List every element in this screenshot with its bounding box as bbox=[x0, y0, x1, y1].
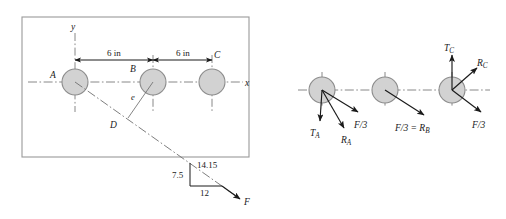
x-axis-label: x bbox=[244, 78, 250, 88]
gear-circle-C bbox=[199, 69, 225, 95]
force-third-B-sub: B bbox=[425, 127, 430, 135]
tension-C-sub: C bbox=[449, 47, 454, 55]
reaction-C-sub: C bbox=[483, 62, 488, 70]
vector-label-force-third-A: F/3 bbox=[353, 120, 367, 130]
figure-root: x y 6 in 6 in A B C F e D 14.15 7.5 bbox=[0, 0, 506, 219]
point-D-label: D bbox=[109, 120, 117, 130]
force-third-B-base: F/3 = R bbox=[394, 123, 425, 133]
dimension-label-BC: 6 in bbox=[176, 48, 190, 58]
vector-label-reaction-A: RA bbox=[340, 135, 352, 147]
triangle-vertical-label: 7.5 bbox=[172, 170, 184, 180]
force-F-label: F bbox=[243, 197, 250, 207]
tension-A-sub: A bbox=[314, 132, 320, 140]
gear-label-B: B bbox=[130, 64, 136, 74]
triangle-hyp-label: 14.15 bbox=[197, 160, 218, 170]
gear-label-C: C bbox=[214, 50, 221, 60]
dimension-label-AB: 6 in bbox=[107, 48, 121, 58]
vector-label-force-third-B: F/3 = RB bbox=[394, 123, 430, 135]
vector-label-tension-C: TC bbox=[444, 43, 454, 55]
vector-label-force-third-C: F/3 bbox=[471, 120, 485, 130]
vector-label-tension-A: TA bbox=[310, 128, 320, 140]
eccentricity-label: e bbox=[131, 92, 135, 102]
vector-force-third-B bbox=[385, 90, 424, 115]
vector-label-reaction-C: RC bbox=[476, 58, 488, 70]
force-F-arrow bbox=[222, 186, 240, 199]
reaction-A-sub: A bbox=[346, 139, 352, 147]
triangle-horizontal-label: 12 bbox=[200, 188, 209, 198]
y-axis-label: y bbox=[70, 22, 76, 32]
engineering-figure: x y 6 in 6 in A B C F e D 14.15 7.5 bbox=[0, 0, 506, 219]
gear-label-A: A bbox=[49, 70, 56, 80]
